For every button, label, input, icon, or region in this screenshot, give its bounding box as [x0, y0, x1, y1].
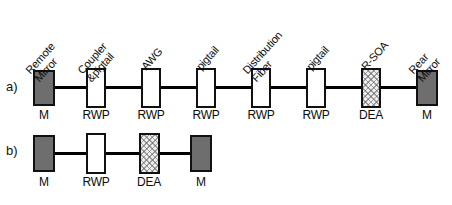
- component-box-b-2: [86, 133, 106, 174]
- top-label-a-2: Coupler &pigtail: [76, 41, 118, 84]
- component-box-b-1: [33, 135, 55, 172]
- connector-line-b: [44, 152, 196, 155]
- component-box-a-6: [306, 68, 326, 108]
- under-label-a-8: M: [422, 108, 432, 122]
- under-label-a-4: RWP: [192, 108, 219, 122]
- under-label-a-2: RWP: [82, 108, 109, 122]
- optical-link-block-diagram: a) Remote Mirror Coupler &pigtail AWG pi…: [0, 0, 452, 205]
- component-box-b-3: [139, 133, 160, 174]
- panel-letter-b: b): [6, 143, 18, 158]
- component-box-a-4: [196, 68, 216, 108]
- under-label-a-6: RWP: [302, 108, 329, 122]
- under-label-a-1: M: [39, 108, 49, 122]
- under-label-b-2: RWP: [82, 175, 109, 189]
- under-label-a-3: RWP: [137, 108, 164, 122]
- component-box-b-4: [190, 135, 212, 172]
- under-label-a-7: DEA: [359, 108, 383, 122]
- under-label-a-5: RWP: [247, 108, 274, 122]
- under-label-b-3: DEA: [137, 175, 161, 189]
- top-label-a-1: Remote Mirror: [24, 41, 66, 84]
- component-box-a-7: [361, 68, 381, 108]
- component-box-a-3: [141, 68, 161, 108]
- panel-letter-a: a): [6, 79, 18, 94]
- under-label-b-4: M: [196, 175, 206, 189]
- under-label-b-1: M: [39, 175, 49, 189]
